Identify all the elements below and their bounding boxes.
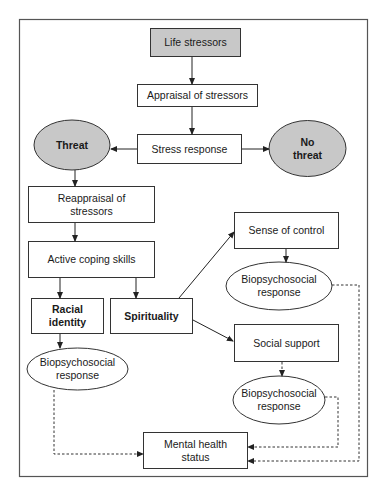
biopsych-control-text-1: Biopsychosocial bbox=[241, 273, 316, 286]
label-stress-response: Stress response bbox=[137, 134, 242, 164]
spirituality-text: Spirituality bbox=[124, 310, 178, 323]
reappraisal-text-2: stressors bbox=[70, 205, 113, 218]
biopsych-support-text-2: response bbox=[257, 400, 300, 413]
label-active-coping: Active coping skills bbox=[28, 241, 155, 278]
label-sense-of-control: Sense of control bbox=[234, 212, 339, 249]
biopsych-control-text-2: response bbox=[257, 286, 300, 299]
label-racial-identity: Racial identity bbox=[31, 298, 104, 334]
no-threat-text-2: threat bbox=[293, 149, 322, 162]
label-biopsych-racial: Biopsychosocial response bbox=[27, 348, 128, 390]
mental-health-text-1: Mental health bbox=[164, 438, 227, 451]
social-support-text: Social support bbox=[253, 337, 320, 350]
label-threat: Threat bbox=[34, 120, 110, 170]
stress-response-text: Stress response bbox=[152, 143, 228, 156]
threat-text: Threat bbox=[56, 139, 88, 152]
label-spirituality: Spirituality bbox=[110, 298, 193, 334]
reappraisal-text-1: Reappraisal of bbox=[58, 192, 126, 205]
edge-biopsych-racial-to-mental bbox=[54, 390, 143, 454]
label-biopsych-support: Biopsychosocial response bbox=[233, 376, 325, 424]
label-appraisal: Appraisal of stressors bbox=[137, 84, 258, 107]
edge-biopsych-control-to-mental bbox=[248, 285, 359, 461]
racial-identity-text-1: Racial bbox=[52, 303, 83, 316]
active-coping-text: Active coping skills bbox=[47, 253, 135, 266]
biopsych-support-text-1: Biopsychosocial bbox=[241, 387, 316, 400]
no-threat-text-1: No bbox=[301, 136, 315, 149]
label-social-support: Social support bbox=[234, 324, 339, 362]
edge-spirituality-to-social bbox=[193, 320, 233, 341]
life-stressors-text: Life stressors bbox=[164, 36, 226, 49]
racial-identity-text-2: identity bbox=[49, 316, 86, 329]
label-mental-health: Mental health status bbox=[143, 432, 248, 469]
biopsych-racial-text-2: response bbox=[56, 369, 99, 382]
label-life-stressors: Life stressors bbox=[150, 28, 241, 57]
label-reappraisal: Reappraisal of stressors bbox=[28, 186, 155, 223]
biopsych-racial-text-1: Biopsychosocial bbox=[40, 356, 115, 369]
appraisal-text: Appraisal of stressors bbox=[147, 89, 248, 102]
label-biopsych-control: Biopsychosocial response bbox=[226, 262, 332, 310]
label-no-threat: No threat bbox=[269, 120, 346, 177]
mental-health-text-2: status bbox=[181, 451, 209, 464]
sense-of-control-text: Sense of control bbox=[249, 224, 325, 237]
